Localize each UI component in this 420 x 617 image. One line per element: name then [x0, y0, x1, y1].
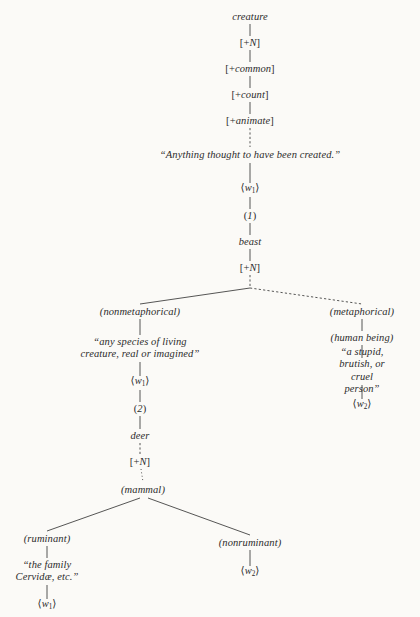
- tree-node-beast-gloss: “any species of livingcreature, real or …: [81, 336, 200, 361]
- tree-node-ruminant-gloss: “the familyCervidæ, etc.”: [16, 559, 79, 584]
- tree-node-common: [+common]: [225, 63, 274, 76]
- tree-node-nonruminant: (nonruminant): [219, 537, 282, 550]
- tree-node-ruminant-w1: ⟨w1⟩: [37, 598, 56, 614]
- tree-node-beast-w2: ⟨w2⟩: [352, 398, 371, 414]
- tree-node-sense-1: (1): [244, 210, 257, 223]
- tree-edge-mammal-to-ruminant: [47, 498, 140, 531]
- tree-edge-fork-to-nonmetaphorical: [140, 288, 250, 304]
- tree-node-nonruminant-w2: ⟨w2⟩: [240, 565, 259, 581]
- tree-edge-fork-to-metaphorical: [250, 288, 362, 304]
- tree-node-beast-n: [+N]: [240, 262, 260, 275]
- tree-node-ruminant: (ruminant): [24, 533, 71, 546]
- tree-node-creature-gloss: “Anything thought to have been created.”: [160, 149, 340, 162]
- tree-node-creature-w1: ⟨w1⟩: [240, 182, 259, 198]
- tree-node-mammal: (mammal): [121, 484, 165, 497]
- tree-node-beast-w1: ⟨w1⟩: [130, 375, 149, 391]
- tree-node-human-being: (human being): [331, 332, 394, 345]
- tree-node-metaphorical: (metaphorical): [330, 306, 394, 319]
- tree-edge-mammal-to-nonruminant: [148, 498, 250, 535]
- tree-node-animate: [+animate]: [226, 115, 274, 128]
- tree-node-beast-gloss-meta: “a stupid, brutish, orcruel person”: [333, 346, 391, 396]
- tree-node-deer-n: [+N]: [130, 456, 150, 469]
- tree-node-creature-n: [+N]: [240, 37, 260, 50]
- tree-edge-deerN-to-mammal: [141, 469, 143, 482]
- tree-node-creature: creature: [232, 11, 268, 24]
- lexical-tree-diagram: creature[+N][+common][+count][+animate]“…: [0, 0, 420, 617]
- tree-node-beast: beast: [239, 236, 262, 249]
- tree-node-nonmetaphorical: (nonmetaphorical): [100, 306, 180, 319]
- tree-node-deer: deer: [130, 430, 149, 443]
- tree-node-sense-2: (2): [134, 403, 147, 416]
- tree-node-count: [+count]: [231, 89, 268, 102]
